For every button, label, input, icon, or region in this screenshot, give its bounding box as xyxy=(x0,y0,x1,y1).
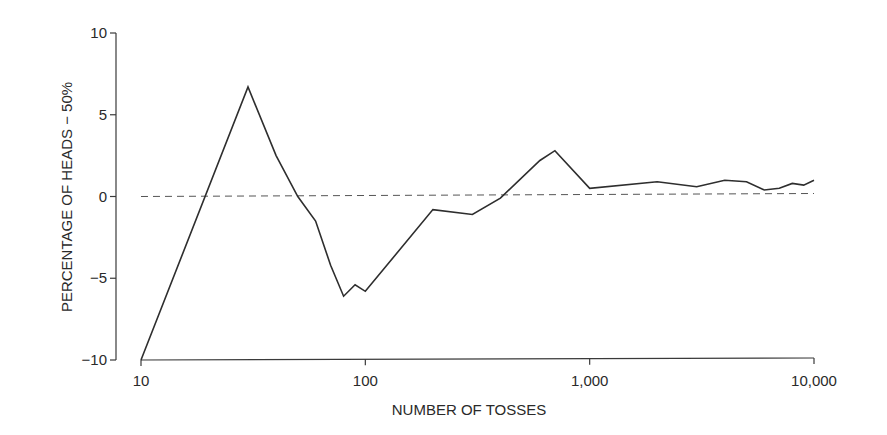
x-tick-label: 1,000 xyxy=(571,372,609,389)
x-tick-label: 100 xyxy=(353,372,378,389)
data-series-line xyxy=(141,87,814,360)
x-axis-line xyxy=(141,358,814,360)
y-axis: 1050−5−10 xyxy=(82,24,116,368)
y-tick-label: −5 xyxy=(90,269,107,286)
line-chart: 1050−5−10 101001,00010,000 NUMBER OF TOS… xyxy=(0,0,887,435)
y-axis-title: PERCENTAGE OF HEADS − 50% xyxy=(58,82,75,312)
y-tick-label: −10 xyxy=(82,351,107,368)
zero-reference-line xyxy=(141,194,814,197)
y-tick-label: 0 xyxy=(99,188,107,205)
x-axis-title: NUMBER OF TOSSES xyxy=(392,401,546,418)
y-tick-label: 5 xyxy=(99,106,107,123)
x-tick-label: 10,000 xyxy=(791,372,837,389)
x-axis: 101001,00010,000 xyxy=(133,358,837,389)
x-tick-label: 10 xyxy=(133,372,150,389)
y-tick-label: 10 xyxy=(90,24,107,41)
